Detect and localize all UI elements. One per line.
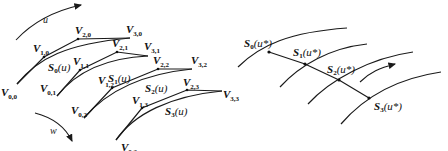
- right-panel: S0(u*) S1(u*) S2(u*) S3(u*): [238, 28, 441, 124]
- label-s1-ustar: S1(u*): [293, 46, 321, 60]
- label-v20: V2,0: [75, 24, 92, 39]
- label-s0u: S0(u): [48, 61, 71, 75]
- curve-right-3: [341, 72, 441, 124]
- flow-direction-arrow: [360, 64, 395, 82]
- control-point-v20: [77, 38, 80, 41]
- point-s3: [367, 96, 370, 99]
- label-v11: V1,1: [73, 55, 90, 70]
- point-s0: [267, 50, 270, 53]
- label-v02: V0,2: [71, 104, 88, 119]
- label-v23: V2,3: [183, 76, 200, 91]
- label-v13: V1,3: [132, 94, 149, 109]
- curve-right-2: [308, 52, 413, 104]
- control-point-v22: [157, 68, 160, 71]
- point-s1: [303, 62, 306, 65]
- label-v00: V0,0: [1, 86, 18, 101]
- w-label: w: [50, 125, 57, 136]
- u-label: u: [43, 14, 48, 25]
- control-point-v23: [186, 89, 189, 92]
- label-s2u: S2(u): [145, 82, 168, 96]
- label-s3u: S3(u): [165, 105, 188, 119]
- label-v03: V0,3: [121, 141, 138, 151]
- isoparametric-line: [269, 52, 369, 98]
- label-s1u: S1(u): [108, 72, 131, 86]
- surface-construction-diagram: u w V0,0 V1,0 V2,0 V3,0 V0,1 V1,1 V2,1 V…: [0, 0, 448, 151]
- label-v30: V3,0: [126, 23, 143, 38]
- label-v22: V2,2: [153, 54, 170, 69]
- label-v01: V0,1: [40, 82, 57, 97]
- label-v32: V3,2: [191, 54, 208, 69]
- label-v33: V3,3: [223, 88, 240, 103]
- label-v10: V1,0: [33, 42, 50, 57]
- control-point-v21: [116, 51, 119, 54]
- label-s2-ustar: S2(u*): [327, 63, 355, 77]
- point-s2: [337, 78, 340, 81]
- left-panel: u w V0,0 V1,0 V2,0 V3,0 V0,1 V1,1 V2,1 V…: [1, 5, 240, 151]
- label-s3-ustar: S3(u*): [374, 100, 402, 114]
- label-v31: V3,1: [144, 40, 161, 55]
- u-direction-arrow: [16, 5, 81, 40]
- label-s0-ustar: S0(u*): [244, 37, 272, 51]
